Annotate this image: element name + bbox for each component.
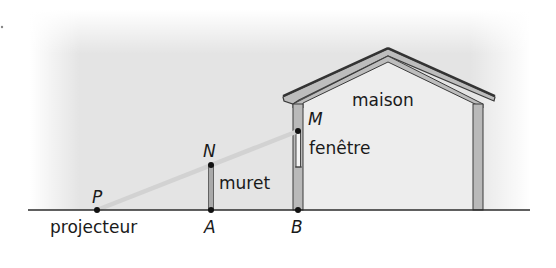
label-projecteur: projecteur — [50, 217, 137, 237]
point-N — [208, 162, 214, 168]
window — [296, 131, 301, 167]
point-B — [295, 207, 301, 213]
point-M — [295, 128, 301, 134]
point-P — [94, 207, 100, 213]
label-muret: muret — [219, 173, 270, 193]
label-fenetre: fenêtre — [309, 138, 370, 158]
label-maison: maison — [352, 90, 414, 110]
house-right-wall — [473, 104, 483, 210]
stray-dot — [1, 26, 3, 28]
label-N: N — [203, 141, 216, 161]
label-B: B — [291, 217, 303, 237]
label-M: M — [308, 109, 323, 129]
geometry-figure: P A B N M projecteur muret maison fenêtr… — [0, 0, 556, 268]
point-A — [208, 207, 214, 213]
label-P: P — [92, 187, 103, 207]
muret-wall — [209, 165, 214, 210]
label-A: A — [203, 217, 216, 237]
